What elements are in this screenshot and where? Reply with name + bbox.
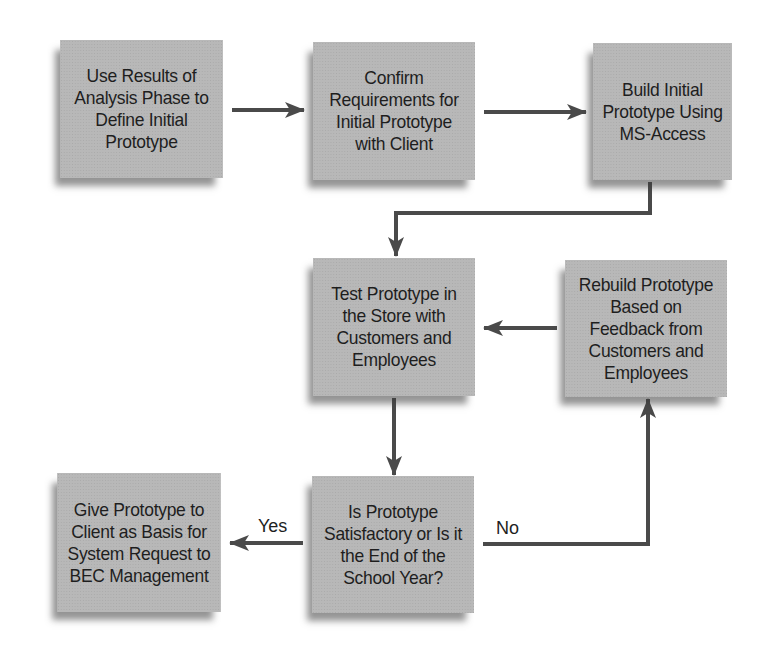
node-test-label: Test Prototype in the Store with Custome…	[331, 283, 457, 371]
node-build-label: Build Initial Prototype Using MS-Access	[602, 79, 722, 145]
node-give-label: Give Prototype to Client as Basis for Sy…	[67, 499, 210, 587]
node-decision: Is Prototype Satisfactory or Is it the E…	[312, 476, 474, 613]
node-decision-label: Is Prototype Satisfactory or Is it the E…	[324, 501, 462, 589]
arrow-build-to-test	[396, 182, 650, 256]
node-confirm-label: Confirm Requirements for Initial Prototy…	[329, 67, 459, 155]
node-test: Test Prototype in the Store with Custome…	[313, 258, 475, 396]
node-build: Build Initial Prototype Using MS-Access	[593, 43, 732, 180]
edge-label-no: No	[496, 518, 519, 539]
node-rebuild-label: Rebuild Prototype Based on Feedback from…	[579, 274, 713, 384]
node-analysis-label: Use Results of Analysis Phase to Define …	[74, 65, 208, 153]
edge-label-yes: Yes	[258, 516, 287, 537]
node-rebuild: Rebuild Prototype Based on Feedback from…	[565, 260, 727, 397]
node-give: Give Prototype to Client as Basis for Sy…	[57, 473, 221, 612]
node-analysis: Use Results of Analysis Phase to Define …	[60, 40, 223, 178]
node-confirm: Confirm Requirements for Initial Prototy…	[313, 42, 475, 180]
